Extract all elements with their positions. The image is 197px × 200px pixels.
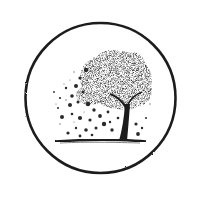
ground-line	[55, 140, 146, 142]
tree-badge-illustration	[0, 0, 197, 200]
tree-emblem-icon	[0, 0, 197, 200]
tree-canopy	[76, 50, 152, 110]
